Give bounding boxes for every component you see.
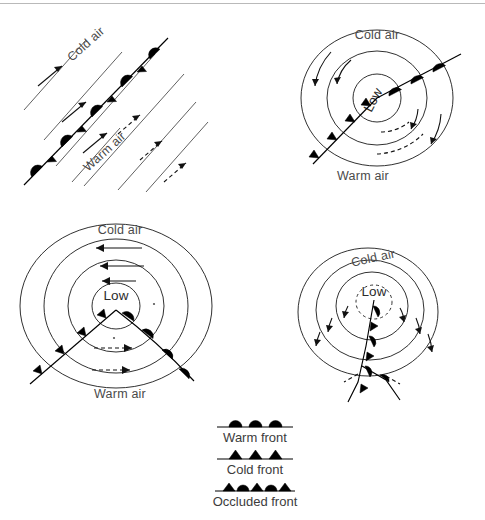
panel2-warm-air-label: Warm air xyxy=(337,169,389,183)
panel2-frontal-wave xyxy=(313,54,461,164)
panel3-dot-1 xyxy=(153,303,155,305)
legend-label-occluded-front: Occluded front xyxy=(185,494,325,509)
panel2-low-label: Low xyxy=(361,85,386,114)
panel2-warm-front-symbols xyxy=(389,64,446,96)
panel2-cold-air-label: Cold air xyxy=(355,28,400,42)
warm-air-arrowhead-2 xyxy=(154,141,162,147)
warm-air-arrowhead-3 xyxy=(178,163,186,169)
panel4-low-label: Low xyxy=(362,284,387,299)
legend: Warm front Cold front xyxy=(185,416,325,512)
panel-stage-2-wave-cyclone: Low Cold air Warm air xyxy=(285,14,480,194)
panel3-low-label: Low xyxy=(104,288,129,303)
panel3-warm-front-symbols xyxy=(122,312,190,379)
panel3-warm-air-label: Warm air xyxy=(94,387,146,401)
panel4-cold-air-label: Cold air xyxy=(350,247,397,270)
panel3-isobars xyxy=(20,224,212,388)
legend-item-warm-front: Warm front xyxy=(185,416,325,445)
panel-stage-4-occlusion: Cold air Low xyxy=(300,234,475,409)
warm-air-arrowhead-1 xyxy=(132,115,140,121)
panel3-dot-2 xyxy=(113,337,115,339)
legend-label-cold-front: Cold front xyxy=(185,462,325,477)
panel-stage-1-stationary-front: Cold air Warm air xyxy=(0,10,250,200)
panel3-cyclonic-arrows xyxy=(92,244,144,374)
cold-front-symbol-icon xyxy=(185,448,325,462)
panel4-occluded-front xyxy=(348,300,400,402)
weather-front-diagram: Cold air Warm air xyxy=(0,0,485,520)
legend-label-warm-front: Warm front xyxy=(185,430,325,445)
occluded-front-symbol-icon xyxy=(185,480,325,494)
panel3-cold-air-label: Cold air xyxy=(98,223,143,237)
top-border-rule xyxy=(0,3,485,4)
warm-front-symbol-icon xyxy=(185,416,325,430)
panel-stage-3-open-wave: Cold air Warm air xyxy=(8,218,243,403)
warm-air-flowlines xyxy=(84,74,208,192)
panel1-cold-air-label: Cold air xyxy=(65,24,108,64)
legend-item-cold-front: Cold front xyxy=(185,448,325,477)
legend-item-occluded-front: Occluded front xyxy=(185,480,325,509)
